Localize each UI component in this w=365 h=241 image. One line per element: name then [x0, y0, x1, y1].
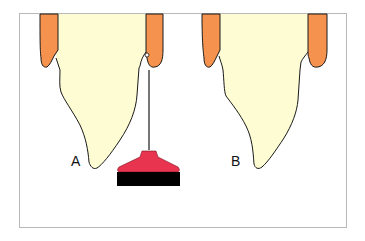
panel-label-a: A [71, 153, 81, 169]
thread-attachment-point [145, 53, 149, 57]
brush-bristles [117, 172, 180, 186]
panel-label-b: B [231, 153, 240, 169]
gingiva-a-right [146, 14, 163, 67]
dental-diagram: A B [0, 0, 365, 241]
gingiva-b-right [308, 14, 327, 67]
